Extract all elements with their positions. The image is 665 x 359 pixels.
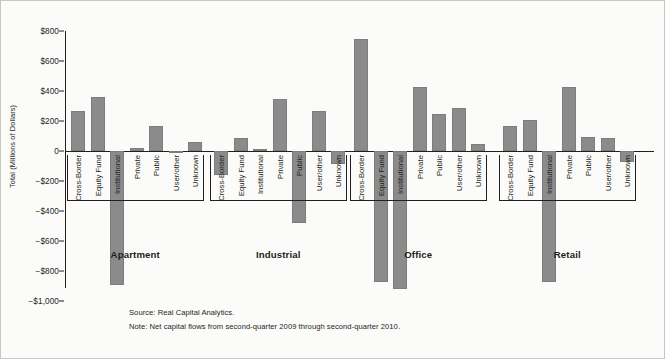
bar[interactable] — [253, 149, 267, 151]
bar[interactable] — [581, 137, 595, 151]
group-bracket — [499, 155, 636, 201]
bar-group-industrial: Cross-BorderEquity FundInstitutionalPriv… — [214, 13, 351, 303]
bar-group-retail: Cross-BorderEquity FundInstitutionalPriv… — [503, 13, 640, 303]
y-axis-tick-mark — [59, 91, 64, 92]
group-title: Retail — [499, 249, 636, 260]
bar-group-office: Cross-BorderEquity FundInstitutionalPriv… — [354, 13, 491, 303]
y-axis-tick-mark — [59, 271, 64, 272]
bar[interactable] — [452, 108, 466, 151]
y-axis-tick-mark — [59, 31, 64, 32]
y-axis-tick-label: $600 — [40, 57, 59, 66]
definition-note: Note: Net capital flows from second-quar… — [129, 320, 400, 334]
y-axis-tick-label: $200 — [40, 117, 59, 126]
y-axis-tick-label: −$600 — [36, 237, 60, 246]
y-axis-tick-mark — [59, 181, 64, 182]
chart-figure: Total (Millions of Dollars) $800$600$400… — [0, 0, 665, 359]
y-axis-tick-label: −$800 — [36, 267, 60, 276]
y-axis-tick-mark — [59, 241, 64, 242]
group-bracket — [67, 155, 204, 201]
y-axis-tick-label: −$400 — [36, 207, 60, 216]
bar[interactable] — [273, 99, 287, 152]
plot-area: Cross-BorderEquity FundInstitutionalPriv… — [66, 13, 654, 303]
bar[interactable] — [471, 144, 485, 151]
y-axis-tick-label: $400 — [40, 87, 59, 96]
group-bracket — [210, 155, 347, 201]
bar[interactable] — [432, 114, 446, 151]
bar[interactable] — [523, 120, 537, 151]
y-axis-tick-label: −$1,000 — [28, 297, 59, 306]
bar[interactable] — [562, 87, 576, 152]
y-axis-title: Total (Millions of Dollars) — [5, 1, 21, 291]
y-axis-tick-mark — [59, 211, 64, 212]
group-title: Apartment — [67, 249, 204, 260]
bar[interactable] — [71, 111, 85, 152]
source-note: Source: Real Capital Analytics. — [129, 306, 400, 320]
bar[interactable] — [188, 142, 202, 151]
bar[interactable] — [169, 151, 183, 153]
bar[interactable] — [149, 126, 163, 151]
y-axis-ticks: $800$600$400$2000−$200−$400−$600−$800−$1… — [21, 1, 65, 359]
bar[interactable] — [413, 87, 427, 151]
group-bracket — [350, 155, 487, 201]
bar[interactable] — [234, 138, 248, 151]
bar[interactable] — [503, 126, 517, 151]
y-axis-tick-label: −$200 — [36, 177, 60, 186]
y-axis-tick-mark — [59, 121, 64, 122]
bar[interactable] — [91, 97, 105, 151]
bar[interactable] — [312, 111, 326, 151]
y-axis-tick-mark — [59, 151, 64, 152]
group-title: Office — [350, 249, 487, 260]
footnotes: Source: Real Capital Analytics. Note: Ne… — [129, 306, 400, 333]
bar-group-apartment: Cross-BorderEquity FundInstitutionalPriv… — [71, 13, 208, 303]
bar[interactable] — [354, 39, 368, 152]
bar[interactable] — [130, 148, 144, 151]
bar[interactable] — [601, 138, 615, 151]
y-axis-tick-label: $800 — [40, 27, 59, 36]
y-axis-tick-mark — [59, 61, 64, 62]
y-axis-tick-mark — [59, 301, 64, 302]
group-title: Industrial — [210, 249, 347, 260]
